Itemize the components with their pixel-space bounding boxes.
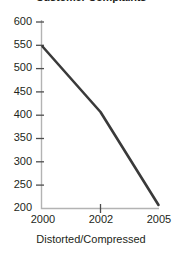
chart-caption: Distorted/Compressed — [0, 233, 182, 245]
x-tick-label: 2000 — [20, 214, 66, 225]
y-tick-label: 300 — [0, 156, 32, 167]
axis-spine — [42, 20, 160, 209]
y-tick-label: 500 — [0, 62, 32, 73]
plot-area: 600 550 500 450 400 350 300 250 200 2000… — [0, 0, 182, 232]
x-tick-label: 2002 — [78, 214, 124, 225]
y-tick-label: 350 — [0, 132, 32, 143]
y-tick-label: 600 — [0, 16, 32, 27]
y-tick-label: 250 — [0, 179, 32, 190]
y-tick-label: 550 — [0, 39, 32, 50]
y-tick-label: 200 — [0, 202, 32, 213]
data-line-customer-complaints — [43, 47, 159, 206]
chart-figure: Customer Complaints 6 — [0, 0, 182, 258]
y-tick-label: 400 — [0, 109, 32, 120]
y-tick-label: 450 — [0, 86, 32, 97]
x-tick-label: 2005 — [136, 214, 182, 225]
